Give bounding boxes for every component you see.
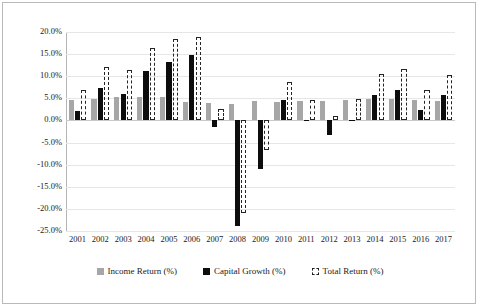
bar-total-2010: [287, 82, 292, 121]
bar-group-2006: [183, 32, 201, 231]
bar-capital-2010: [281, 100, 286, 120]
bar-capital-2015: [395, 90, 400, 121]
y-axis-tick-label: -25.0%: [37, 226, 62, 235]
x-axis-tick-label-2003: 2003: [112, 234, 135, 245]
bar-total-2001: [81, 90, 86, 120]
chart-legend: Income Return (%)Capital Growth (%)Total…: [0, 266, 480, 276]
bar-total-2007: [218, 109, 223, 120]
bar-income-2010: [274, 102, 279, 121]
bar-group-2017: [435, 32, 453, 231]
bar-capital-2006: [189, 55, 194, 120]
plot-area: [66, 32, 455, 231]
legend-item-income[interactable]: Income Return (%): [97, 266, 177, 276]
x-axis-tick-label-2007: 2007: [203, 234, 226, 245]
x-axis-tick-label-2001: 2001: [66, 234, 89, 245]
bar-total-2013: [356, 99, 361, 120]
bar-capital-2005: [166, 62, 171, 120]
legend-item-total[interactable]: Total Return (%): [312, 266, 384, 276]
bar-total-2004: [150, 48, 155, 121]
bar-group-2011: [297, 32, 315, 231]
bar-income-2001: [69, 100, 74, 120]
bar-income-2008: [229, 104, 234, 120]
legend-label: Income Return (%): [108, 266, 177, 276]
bar-capital-2009: [258, 120, 263, 169]
x-axis-tick-label-2015: 2015: [386, 234, 409, 245]
y-axis-line: [66, 32, 67, 231]
x-axis-tick-label-2005: 2005: [158, 234, 181, 245]
bar-total-2003: [127, 70, 132, 120]
bar-capital-2017: [441, 95, 446, 121]
x-axis-tick-label-2004: 2004: [135, 234, 158, 245]
x-axis-tick-label-2016: 2016: [409, 234, 432, 245]
legend-swatch-income-icon: [97, 268, 104, 275]
bar-capital-2008: [235, 120, 240, 225]
x-axis-tick-label-2011: 2011: [295, 234, 318, 245]
bar-income-2017: [435, 101, 440, 120]
bar-total-2005: [173, 39, 178, 121]
bar-total-2014: [379, 74, 384, 121]
x-axis-tick-label-2014: 2014: [363, 234, 386, 245]
bar-group-2012: [320, 32, 338, 231]
bar-capital-2002: [98, 88, 103, 120]
bar-group-2005: [160, 32, 178, 231]
bar-capital-2011: [304, 120, 309, 121]
y-axis-tick-label: -5.0%: [41, 138, 62, 147]
bar-total-2012: [333, 116, 338, 121]
y-axis-labels: 20.0%15.0%10.0%5.0%0.0%-5.0%-10.0%-15.0%…: [0, 32, 62, 231]
bar-income-2014: [366, 99, 371, 120]
y-axis-tick-label: -15.0%: [37, 182, 62, 191]
legend-item-capital[interactable]: Capital Growth (%): [203, 266, 285, 276]
bar-income-2013: [343, 100, 348, 120]
bar-capital-2016: [418, 110, 423, 120]
x-axis-tick-label-2010: 2010: [272, 234, 295, 245]
x-axis-labels: 2001200220032004200520062007200820092010…: [66, 234, 455, 248]
bar-income-2006: [183, 102, 188, 121]
y-axis-tick-label: -20.0%: [37, 204, 62, 213]
y-axis-tick-label: -10.0%: [37, 160, 62, 169]
x-axis-tick-label-2013: 2013: [341, 234, 364, 245]
bar-total-2008: [241, 120, 246, 212]
bar-income-2005: [160, 97, 165, 120]
bar-income-2011: [297, 101, 302, 120]
bar-group-2009: [252, 32, 270, 231]
chart-figure: 20.0%15.0%10.0%5.0%0.0%-5.0%-10.0%-15.0%…: [0, 0, 480, 307]
bar-group-2015: [389, 32, 407, 231]
legend-label: Capital Growth (%): [214, 266, 285, 276]
x-axis-tick-label-2008: 2008: [226, 234, 249, 245]
bar-income-2016: [412, 100, 417, 120]
bar-income-2012: [320, 101, 325, 120]
bar-total-2016: [424, 90, 429, 121]
bar-capital-2012: [327, 120, 332, 135]
bar-group-2001: [69, 32, 87, 231]
bar-group-2007: [206, 32, 224, 231]
gridline: [66, 231, 455, 232]
x-axis-tick-label-2002: 2002: [89, 234, 112, 245]
bar-total-2006: [196, 37, 201, 121]
x-axis-tick-label-2017: 2017: [432, 234, 455, 245]
bar-group-2008: [229, 32, 247, 231]
bar-group-2010: [274, 32, 292, 231]
bar-total-2011: [310, 100, 315, 120]
bar-group-2002: [91, 32, 109, 231]
bar-group-2016: [412, 32, 430, 231]
bar-total-2017: [447, 75, 452, 120]
bar-capital-2013: [349, 120, 354, 121]
y-axis-tick-label: 20.0%: [40, 27, 62, 36]
bar-income-2003: [114, 97, 119, 120]
x-axis-tick-label-2009: 2009: [249, 234, 272, 245]
legend-label: Total Return (%): [323, 266, 384, 276]
x-axis-tick-label-2006: 2006: [180, 234, 203, 245]
bar-group-2013: [343, 32, 361, 231]
y-axis-tick-label: 15.0%: [40, 49, 62, 58]
bar-capital-2003: [121, 94, 126, 121]
bar-capital-2007: [212, 120, 217, 127]
bar-income-2002: [91, 99, 96, 120]
y-axis-tick-label: 0.0%: [44, 115, 62, 124]
bar-capital-2004: [143, 71, 148, 120]
bar-income-2004: [137, 97, 142, 120]
bar-capital-2014: [372, 95, 377, 121]
bar-income-2007: [206, 103, 211, 121]
x-axis-tick-label-2012: 2012: [318, 234, 341, 245]
bar-total-2009: [264, 120, 269, 149]
bar-income-2015: [389, 99, 394, 120]
